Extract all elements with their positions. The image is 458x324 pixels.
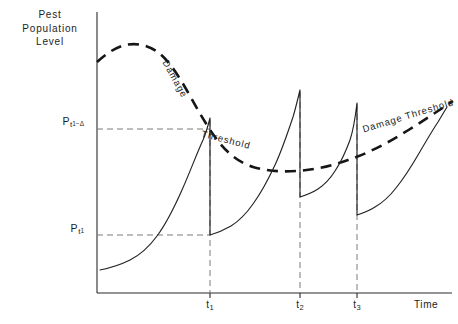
x-tick-sub-1: 2: [300, 303, 304, 312]
y-tick-sub2-1: 1: [80, 227, 84, 234]
y-tick-label-p-t1-delta: Pt1−Δ: [22, 115, 84, 129]
x-tick-label-t3: t3: [345, 299, 369, 312]
y-axis-title-line-2: Population: [14, 22, 86, 36]
y-axis-title-line-1: Pest: [14, 8, 86, 22]
y-tick-label-p-t1: Pt1: [22, 222, 84, 236]
x-tick-sub-0: 1: [210, 303, 214, 312]
chart-canvas: [0, 0, 458, 324]
y-axis-title-line-3: Level: [14, 35, 86, 49]
y-tick-sub2-0: 1−Δ: [72, 120, 84, 127]
y-tick-base-1: P: [71, 222, 79, 234]
y-axis-title: Pest Population Level: [14, 8, 86, 49]
x-tick-label-t1: t1: [198, 299, 222, 312]
damage-threshold-curve: [97, 44, 453, 171]
x-tick-label-t2: t2: [288, 299, 312, 312]
y-tick-base-0: P: [62, 115, 70, 127]
pest-population-chart: Pest Population Level Time Pt1−Δ Pt1 t1 …: [0, 0, 458, 324]
x-axis-title: Time: [414, 299, 438, 310]
x-tick-sub-2: 3: [357, 303, 361, 312]
